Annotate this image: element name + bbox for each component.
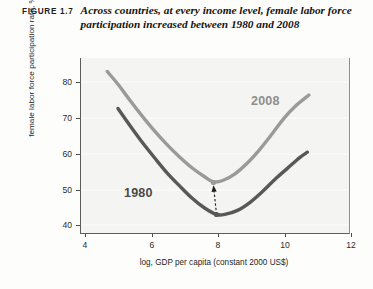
x-tick-label-10: 10: [275, 240, 295, 250]
x-tick-label-12: 12: [341, 240, 361, 250]
annotation-arrow: [214, 192, 216, 215]
x-tick-label-6: 6: [142, 240, 162, 250]
minimum-marker-2008: [211, 180, 216, 185]
y-tick-label-60: 60: [50, 149, 72, 159]
plot-area: [80, 58, 350, 234]
series-label-2008: 2008: [251, 94, 280, 108]
y-axis-title: female labor force participation rate, %: [27, 0, 36, 151]
figure-caption-text: Across countries, at every income level,…: [81, 3, 367, 31]
chart-svg: [81, 58, 349, 233]
y-tick-label-50: 50: [50, 185, 72, 195]
x-tick-mark-12: [351, 233, 352, 237]
caption-line: FIGURE 1.7 Across countries, at every in…: [22, 3, 367, 31]
figure-container: FIGURE 1.7 Across countries, at every in…: [0, 0, 373, 289]
series-label-1980: 1980: [124, 186, 153, 200]
annotation-arrow-head: [212, 185, 217, 192]
y-tick-label-40: 40: [50, 220, 72, 230]
y-tick-label-70: 70: [50, 113, 72, 123]
x-tick-label-4: 4: [75, 240, 95, 250]
x-tick-label-8: 8: [208, 240, 228, 250]
figure-caption: FIGURE 1.7 Across countries, at every in…: [22, 3, 367, 31]
y-tick-label-80: 80: [50, 77, 72, 87]
x-axis-title: log, GDP per capita (constant 2000 US$): [80, 258, 348, 267]
series-line-2008: [107, 71, 309, 182]
minimum-marker-1980: [214, 212, 219, 217]
